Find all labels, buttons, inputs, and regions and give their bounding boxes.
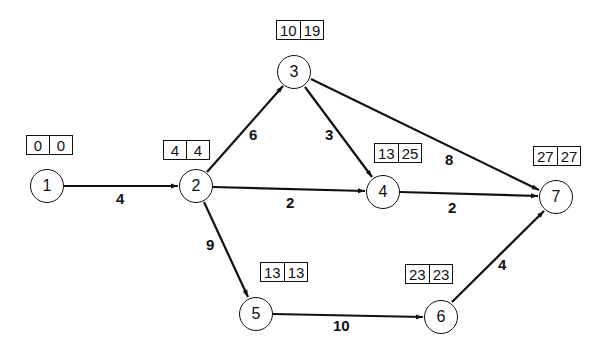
node-label: 7 — [552, 188, 561, 206]
early-time: 10 — [277, 21, 300, 39]
node-4: 4 — [366, 175, 400, 209]
edge-3-4 — [305, 87, 372, 177]
edge-label-5-6: 10 — [333, 317, 350, 334]
edge-2-3 — [207, 86, 283, 172]
node-label: 3 — [290, 63, 299, 81]
early-time: 13 — [261, 263, 284, 281]
early-time: 23 — [406, 265, 429, 283]
time-box-node-4: 1325 — [374, 143, 422, 163]
early-time: 13 — [375, 144, 398, 162]
late-time: 27 — [557, 147, 581, 165]
time-box-node-6: 2323 — [405, 264, 453, 284]
node-label: 4 — [379, 183, 388, 201]
late-time: 4 — [186, 141, 209, 159]
node-label: 6 — [437, 308, 446, 326]
late-time: 19 — [300, 21, 324, 39]
edge-label-1-2: 4 — [116, 190, 124, 207]
late-time: 23 — [429, 265, 453, 283]
edge-label-6-7: 4 — [498, 256, 506, 273]
early-time: 4 — [164, 141, 186, 159]
edge-2-4 — [213, 187, 365, 191]
node-2: 2 — [179, 169, 213, 203]
node-6: 6 — [424, 300, 458, 334]
edge-label-2-4: 2 — [286, 194, 294, 211]
node-label: 1 — [43, 177, 52, 195]
node-1: 1 — [30, 169, 64, 203]
late-time: 25 — [398, 144, 422, 162]
edge-3-7 — [311, 79, 539, 190]
edges-layer — [0, 0, 607, 354]
late-time: 0 — [49, 136, 72, 154]
node-label: 2 — [192, 177, 201, 195]
edge-4-7 — [400, 192, 538, 196]
node-7: 7 — [539, 180, 573, 214]
edge-label-3-7: 8 — [445, 151, 453, 168]
node-label: 5 — [252, 305, 261, 323]
time-box-node-7: 2727 — [533, 146, 581, 166]
edge-label-4-7: 2 — [448, 199, 456, 216]
early-time: 27 — [534, 147, 557, 165]
time-box-node-5: 1313 — [260, 262, 308, 282]
node-5: 5 — [239, 297, 273, 331]
time-box-node-3: 1019 — [276, 20, 324, 40]
late-time: 13 — [284, 263, 308, 281]
time-box-node-2: 44 — [163, 140, 210, 160]
node-3: 3 — [277, 55, 311, 89]
edge-label-2-5: 9 — [206, 236, 214, 253]
edge-label-3-4: 3 — [325, 126, 333, 143]
time-box-node-1: 00 — [26, 135, 73, 155]
early-time: 0 — [27, 136, 49, 154]
edge-label-2-3: 6 — [249, 126, 257, 143]
